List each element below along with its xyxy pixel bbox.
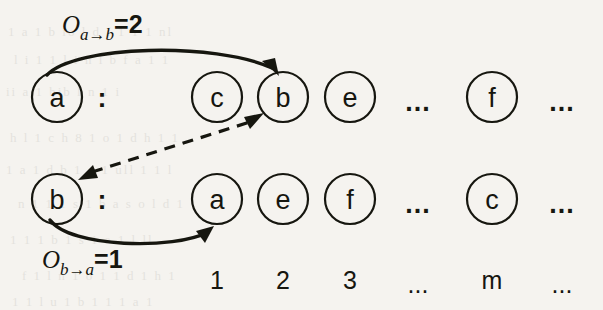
svg-text:Ob→a=1: Ob→a=1 [42, 245, 123, 279]
link-b-row-a-to-b-row-b [78, 113, 264, 180]
row-a-ellipsis-end: ... [549, 87, 575, 117]
offset-a-to-b-label: Oa→b=2 [62, 10, 143, 44]
position-index-row: 1 2 3 ... m ... [210, 266, 572, 298]
offset-a-to-b-value: =2 [114, 10, 143, 38]
row-a-ellipsis-mid: ... [405, 87, 431, 117]
arrowhead-icon [262, 58, 279, 76]
index-cell-2: 2 [276, 266, 290, 294]
index-cell-3: 3 [343, 266, 357, 294]
arrowhead-icon-upper-right [244, 113, 264, 129]
offset-a-to-b-symbol: O [62, 11, 80, 38]
row-b: b : a e f ... c ... [32, 174, 575, 224]
dashed-link-path [92, 122, 250, 172]
row-b-ellipsis-end: ... [549, 189, 575, 219]
arc-a-to-b-path [47, 50, 272, 75]
node-label: a [49, 83, 65, 113]
node-label: e [275, 185, 290, 215]
arrowhead-icon [196, 226, 214, 243]
node-f-row-b[interactable]: f [325, 174, 375, 224]
node-label: f [488, 83, 496, 113]
node-e-row-a[interactable]: e [325, 72, 375, 122]
node-label: b [275, 83, 290, 113]
offset-b-to-a-subscript: b→a [60, 260, 94, 279]
index-cell-m: m [482, 266, 503, 294]
offset-a-to-b-subscript: a→b [80, 25, 114, 44]
node-a-row-b[interactable]: a [192, 174, 242, 224]
row-a: a : c b e ... f ... [32, 72, 575, 122]
node-c-row-a[interactable]: c [192, 72, 242, 122]
index-cell-ellipsis-mid: ... [408, 270, 429, 298]
node-label: f [346, 185, 354, 215]
index-cell-1: 1 [210, 266, 224, 294]
node-b-key-row-b[interactable]: b [32, 174, 82, 224]
node-c-row-b[interactable]: c [467, 174, 517, 224]
row-a-separator: : [98, 83, 107, 113]
node-label: a [209, 185, 225, 215]
arrowhead-icon-lower-left [78, 165, 98, 180]
node-b-row-a[interactable]: b [258, 72, 308, 122]
offset-b-to-a-label: Ob→a=1 [42, 245, 123, 279]
offset-b-to-a-symbol: O [42, 246, 60, 273]
arc-a-to-b [47, 50, 279, 76]
row-b-separator: : [98, 185, 107, 215]
node-a-key-row-a[interactable]: a [32, 72, 82, 122]
node-label: c [210, 83, 224, 113]
arc-b-to-a [50, 220, 214, 244]
arc-b-to-a-path [50, 220, 208, 244]
svg-text:Oa→b=2: Oa→b=2 [62, 10, 143, 44]
node-label: b [49, 185, 64, 215]
node-label: c [485, 185, 499, 215]
node-e-row-b[interactable]: e [258, 174, 308, 224]
node-f-row-a[interactable]: f [467, 72, 517, 122]
offset-b-to-a-value: =1 [94, 245, 123, 273]
node-label: e [342, 83, 357, 113]
row-b-ellipsis-mid: ... [405, 189, 431, 219]
index-cell-ellipsis-end: ... [552, 270, 573, 298]
